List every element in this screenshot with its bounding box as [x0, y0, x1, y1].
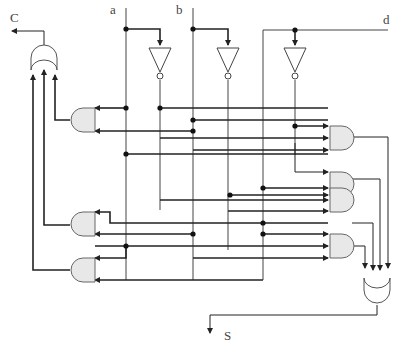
output-label-c: C	[10, 10, 19, 26]
wire-d	[263, 30, 388, 280]
or-gate-c	[31, 45, 57, 70]
output-label-s: S	[224, 328, 231, 344]
and-gate-6	[71, 212, 95, 236]
and-gate-4	[330, 234, 354, 258]
and-gate-1	[330, 126, 354, 150]
input-label-b: b	[176, 2, 183, 18]
and-gate-7	[71, 258, 95, 282]
not-d-gate	[284, 48, 306, 72]
input-label-a: a	[110, 2, 116, 18]
and-gate-3	[330, 188, 354, 212]
circuit-diagram	[0, 0, 398, 349]
input-label-d: d	[383, 12, 390, 28]
not-b-gate	[217, 48, 239, 72]
or-gate-s	[364, 278, 390, 303]
and-gate-5	[71, 108, 95, 132]
not-a-gate	[149, 48, 171, 72]
